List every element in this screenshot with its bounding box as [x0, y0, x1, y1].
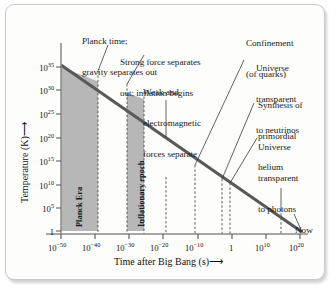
annotation-weak-em: Weak and electromagnetic forces separate [143, 67, 201, 179]
x-tick-label-5: 1 [229, 241, 233, 253]
annotation-weak-em-line-1: electromagnetic [143, 118, 201, 128]
annotation-photons-line-1: transparent [258, 173, 298, 183]
y-tick-label-0: 1035 [24, 61, 54, 73]
x-axis-arrow: ⟶ [209, 256, 223, 267]
x-tick-label-2: 10−30 [116, 241, 134, 253]
x-tick-label-4: 10−10 [185, 241, 203, 253]
annotation-now: Now [295, 205, 313, 256]
annotation-photons-line-2: to photons [258, 204, 298, 214]
y-tick-label-4: 1015 [24, 155, 54, 167]
x-axis-label-text: Time after Big Bang (s) [114, 256, 209, 267]
y-tick-label-3: 1020 [24, 132, 54, 144]
annotation-photons-line-0: Universe [258, 142, 298, 152]
y-tick-label-5: 1010 [24, 179, 54, 191]
x-tick-label-3: 10−20 [150, 241, 168, 253]
y-tick-label-6: 105 [24, 202, 54, 214]
x-tick-label-6: 1010 [255, 241, 270, 253]
y-tick-label-2: 1025 [24, 108, 54, 120]
y-tick-label-1: 1030 [24, 84, 54, 96]
annotation-now-line-0: Now [295, 225, 313, 235]
annotation-weak-em-line-0: Weak and [143, 87, 201, 97]
y-axis-label-text: Temperature (K) [19, 136, 30, 203]
x-tick-label-1: 10−40 [82, 241, 100, 253]
x-tick-label-0: 10−50 [48, 241, 66, 253]
annotation-photons: Universe transparent to photons [258, 122, 298, 234]
leader-helium [230, 138, 257, 183]
band-label-planck-era: Planck Era [75, 187, 84, 227]
leader-neutrinos [222, 103, 254, 179]
annotation-helium-line-0: Synthesis of [258, 100, 303, 110]
leader-confinement [195, 60, 244, 165]
annotation-weak-em-line-2: forces separate [143, 149, 201, 159]
figure-frame: Temperature (K)⟶ Time after Big Bang (s)… [5, 4, 325, 280]
annotation-neutrinos-line-0: Universe [256, 63, 299, 73]
x-axis-label: Time after Big Bang (s)⟶ [114, 256, 223, 267]
y-tick-label-7: 1 [24, 225, 54, 237]
